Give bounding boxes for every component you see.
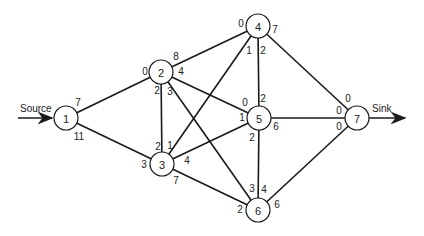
node-label: 5 xyxy=(256,113,262,125)
node-5: 5 xyxy=(247,106,271,130)
edge-3-6 xyxy=(162,164,258,210)
edge-1-2 xyxy=(66,72,161,118)
edge-capacity-label: 2 xyxy=(154,85,160,96)
edge-capacity-label: 7 xyxy=(75,97,81,108)
edge-capacity-label: 4 xyxy=(261,184,267,195)
edge-capacity-label: 0 xyxy=(345,93,351,104)
edge-capacity-label: 7 xyxy=(173,175,179,186)
edge-capacity-label: 1 xyxy=(246,45,252,56)
edge-capacity-label: 2 xyxy=(260,93,266,104)
node-label: 1 xyxy=(63,113,69,125)
edge-2-3 xyxy=(161,72,162,164)
node-3: 3 xyxy=(150,152,174,176)
edge-capacity-label: 4 xyxy=(178,66,184,77)
node-2: 2 xyxy=(149,60,173,84)
node-7: 7 xyxy=(345,106,369,130)
edge-capacity-label: 8 xyxy=(173,51,179,62)
network-flow-diagram: 71108423213470712021623426000 Source Sin… xyxy=(0,0,424,236)
node-6: 6 xyxy=(246,198,270,222)
edge-capacity-label: 0 xyxy=(238,18,244,29)
edge-4-7 xyxy=(258,26,357,118)
edge-capacity-label: 0 xyxy=(242,97,248,108)
edge-capacity-label: 3 xyxy=(167,86,173,97)
edges xyxy=(66,26,357,210)
edge-capacity-label: 1 xyxy=(167,140,173,151)
edge-capacity-label: 0 xyxy=(336,121,342,132)
edge-capacity-label: 2 xyxy=(155,141,161,152)
edge-4-5 xyxy=(258,26,259,118)
sink-label: Sink xyxy=(372,103,392,114)
edge-6-7 xyxy=(258,118,357,210)
node-label: 3 xyxy=(159,159,165,171)
node-1: 1 xyxy=(54,106,78,130)
edge-capacity-label: 6 xyxy=(274,199,280,210)
edge-capacity-label: 0 xyxy=(336,105,342,116)
edge-capacity-label: 3 xyxy=(249,183,255,194)
source-label: Source xyxy=(20,103,52,114)
edge-capacity-label: 0 xyxy=(142,66,148,77)
node-label: 6 xyxy=(255,205,261,217)
edge-capacity-label: 6 xyxy=(273,121,279,132)
node-label: 2 xyxy=(158,67,164,79)
edge-capacity-label: 4 xyxy=(184,155,190,166)
edge-capacity-label: 1 xyxy=(239,112,245,123)
edge-capacity-label: 11 xyxy=(74,131,85,142)
node-label: 4 xyxy=(255,21,261,33)
node-4: 4 xyxy=(246,14,270,38)
edge-capacity-label: 2 xyxy=(237,204,243,215)
edge-5-6 xyxy=(258,118,259,210)
edge-capacity-label: 2 xyxy=(260,45,266,56)
edge-3-5 xyxy=(162,118,259,164)
node-label: 7 xyxy=(354,113,360,125)
edge-2-4 xyxy=(161,26,258,72)
edge-capacity-label: 2 xyxy=(249,132,255,143)
edge-capacity-label: 7 xyxy=(272,24,278,35)
edge-capacity-label: 3 xyxy=(141,159,147,170)
